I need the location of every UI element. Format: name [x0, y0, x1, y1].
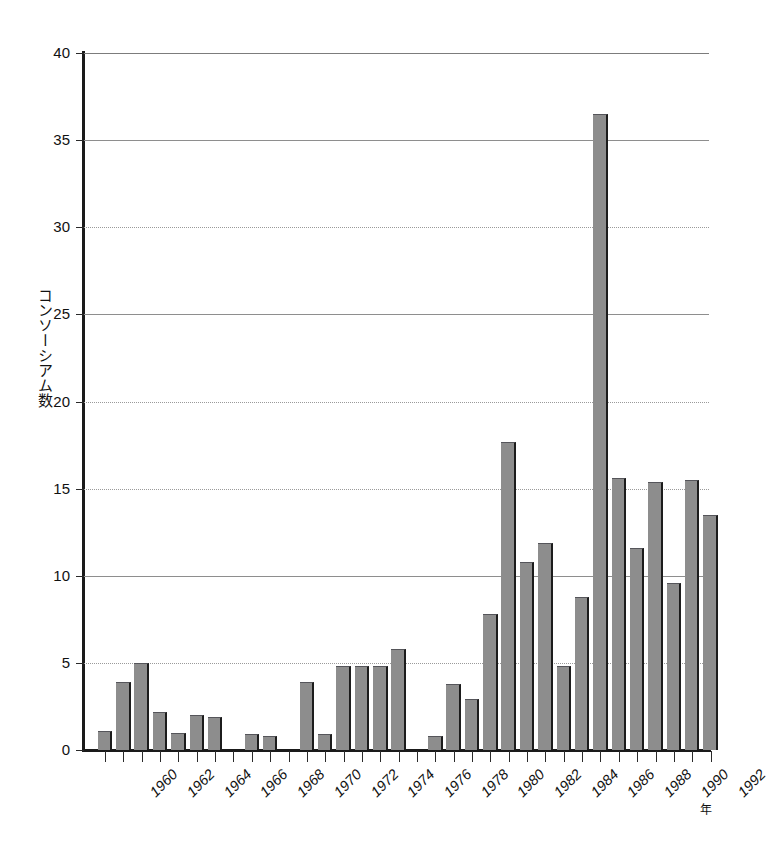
x-tick-label: 1984 — [587, 766, 621, 800]
bar — [263, 736, 278, 750]
gridline-35 — [84, 140, 709, 141]
bar — [116, 682, 131, 750]
x-tick-mark — [399, 751, 400, 762]
bar — [520, 562, 535, 750]
x-tick-mark — [417, 751, 418, 762]
y-tick-label-wrap: 30 — [40, 218, 70, 234]
x-tick-mark — [637, 751, 638, 762]
bar — [300, 682, 315, 750]
x-tick-mark — [454, 751, 455, 762]
gridline-25 — [84, 314, 709, 315]
bar — [153, 712, 168, 750]
x-tick-mark — [509, 751, 510, 762]
x-tick-label: 1982 — [550, 766, 584, 800]
bar — [134, 663, 149, 750]
bar — [391, 649, 406, 750]
x-tick-mark — [490, 751, 491, 762]
x-tick-mark — [582, 751, 583, 762]
x-tick-label: 1966 — [257, 766, 291, 800]
x-tick-label: 1986 — [624, 766, 658, 800]
y-tick-label: 0 — [44, 741, 70, 758]
x-tick-mark — [600, 751, 601, 762]
bar — [648, 482, 663, 750]
x-tick-label: 1964 — [220, 766, 254, 800]
gridline-20 — [84, 402, 709, 403]
bar — [446, 684, 461, 750]
x-tick-mark — [619, 751, 620, 762]
y-tick-mark — [76, 227, 84, 228]
y-tick-label: 40 — [44, 44, 70, 61]
y-tick-label-wrap: 40 — [40, 44, 70, 60]
x-tick-mark — [472, 751, 473, 762]
x-tick-mark — [344, 751, 345, 762]
x-tick-mark — [711, 751, 712, 762]
x-tick-mark — [123, 751, 124, 762]
y-tick-label-wrap: 5 — [40, 654, 70, 670]
x-tick-mark — [160, 751, 161, 762]
y-tick-label: 10 — [44, 567, 70, 584]
y-tick-label: 30 — [44, 218, 70, 235]
bar — [336, 666, 351, 750]
y-tick-label-wrap: 15 — [40, 480, 70, 496]
bar — [318, 734, 333, 750]
y-tick-mark — [76, 402, 84, 403]
bar — [612, 478, 627, 750]
gridline-30 — [84, 227, 709, 228]
x-tick-mark — [215, 751, 216, 762]
y-tick-label: 35 — [44, 131, 70, 148]
bar — [465, 699, 480, 750]
x-tick-mark — [252, 751, 253, 762]
x-tick-mark — [105, 751, 106, 762]
y-tick-label-wrap: 10 — [40, 567, 70, 583]
bar — [98, 731, 113, 750]
x-tick-label: 1992 — [734, 766, 768, 800]
plot-area — [84, 53, 709, 750]
x-tick-label: 1962 — [183, 766, 217, 800]
bar — [190, 715, 205, 750]
bar — [538, 543, 553, 750]
bar — [428, 736, 443, 750]
x-tick-mark — [289, 751, 290, 762]
x-tick-mark — [527, 751, 528, 762]
x-axis-unit-label: 年 — [700, 800, 712, 817]
gridline-40 — [84, 53, 709, 54]
y-tick-mark — [76, 140, 84, 141]
bar — [245, 734, 260, 750]
bar — [373, 666, 388, 750]
x-tick-mark — [362, 751, 363, 762]
bar — [208, 717, 223, 750]
bar — [483, 614, 498, 750]
x-tick-mark — [380, 751, 381, 762]
x-tick-mark — [233, 751, 234, 762]
x-tick-mark — [325, 751, 326, 762]
x-tick-label: 1968 — [294, 766, 328, 800]
y-tick-label: 5 — [44, 654, 70, 671]
x-tick-mark — [270, 751, 271, 762]
y-tick-label-wrap: 0 — [40, 741, 70, 757]
y-tick-label-wrap: 20 — [40, 393, 70, 409]
bar — [355, 666, 370, 750]
y-tick-mark — [76, 314, 84, 315]
x-tick-label: 1980 — [514, 766, 548, 800]
bar — [593, 114, 608, 750]
x-tick-mark — [178, 751, 179, 762]
x-tick-mark — [674, 751, 675, 762]
bar — [575, 597, 590, 750]
y-tick-mark — [76, 750, 84, 751]
x-tick-label: 1988 — [661, 766, 695, 800]
x-tick-label: 1978 — [477, 766, 511, 800]
y-tick-mark — [76, 53, 84, 54]
y-tick-mark — [76, 576, 84, 577]
x-tick-mark — [656, 751, 657, 762]
x-tick-mark — [435, 751, 436, 762]
y-tick-label: 20 — [44, 393, 70, 410]
bar — [667, 583, 682, 750]
bar — [630, 548, 645, 750]
x-tick-mark — [197, 751, 198, 762]
x-tick-label: 1960 — [147, 766, 181, 800]
bar — [685, 480, 700, 750]
x-tick-mark — [564, 751, 565, 762]
x-tick-label: 1970 — [330, 766, 364, 800]
y-tick-label: 15 — [44, 480, 70, 497]
